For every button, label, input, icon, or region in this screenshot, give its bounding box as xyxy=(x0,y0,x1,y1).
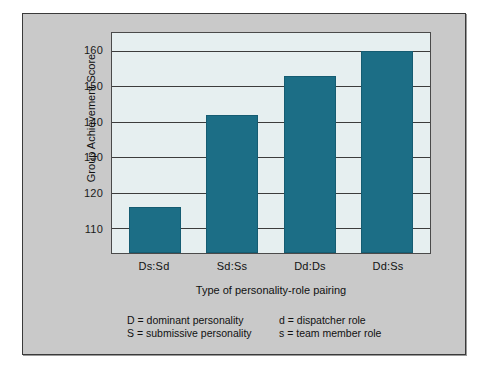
bar-series xyxy=(112,33,430,253)
chart-figure: 160 150 140 130 120 110 Group Achievemen… xyxy=(22,13,466,355)
key-entry: s = team member role xyxy=(279,327,381,340)
plot-area xyxy=(111,32,431,254)
key-row: D = dominant personality d = dispatcher … xyxy=(127,314,417,327)
bar xyxy=(206,115,258,253)
bar-slot xyxy=(349,33,427,253)
chart-key: D = dominant personality d = dispatcher … xyxy=(127,314,417,340)
key-entry: D = dominant personality xyxy=(127,314,279,327)
bar-slot xyxy=(116,33,194,253)
y-axis-ticks: 160 150 140 130 120 110 Group Achievemen… xyxy=(63,32,107,254)
x-tick-label: Dd:Ds xyxy=(271,260,349,276)
x-axis-ticks: Ds:Sd Sd:Ss Dd:Ds Dd:Ss xyxy=(111,260,431,276)
key-entry: d = dispatcher role xyxy=(279,314,366,327)
key-entry: S = submissive personality xyxy=(127,327,279,340)
bar xyxy=(129,207,181,253)
x-tick-label: Dd:Ss xyxy=(349,260,427,276)
bar xyxy=(361,51,413,253)
bar xyxy=(284,76,336,253)
x-tick-label: Sd:Ss xyxy=(193,260,271,276)
x-axis-title: Type of personality-role pairing xyxy=(111,284,431,296)
key-row: S = submissive personality s = team memb… xyxy=(127,327,417,340)
bar-slot xyxy=(194,33,272,253)
y-tick-label: 110 xyxy=(85,223,103,235)
x-tick-label: Ds:Sd xyxy=(115,260,193,276)
bar-slot xyxy=(271,33,349,253)
y-axis-title: Group Achievement Score xyxy=(85,28,97,208)
plot-wrapper xyxy=(111,32,431,254)
